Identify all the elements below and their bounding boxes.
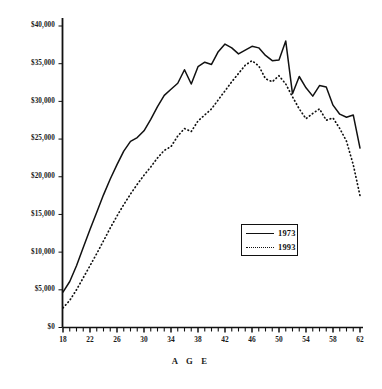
x-tick-label: 26 bbox=[105, 335, 129, 344]
x-tick-label: 38 bbox=[186, 335, 210, 344]
series-line-1973 bbox=[63, 41, 360, 292]
x-tick-marks bbox=[63, 328, 360, 333]
x-tick-label: 42 bbox=[213, 335, 237, 344]
x-axis-title: A G E bbox=[0, 356, 382, 366]
y-tick-label: $20,000 bbox=[2, 172, 55, 180]
x-tick-label: 34 bbox=[159, 335, 183, 344]
x-tick-label: 62 bbox=[348, 335, 372, 344]
legend-entry-1973: 1973 bbox=[245, 226, 296, 240]
y-tick-label: $40,000 bbox=[2, 21, 55, 29]
y-tick-label: $15,000 bbox=[2, 210, 55, 218]
y-tick-label: $5,000 bbox=[2, 285, 55, 293]
legend-swatch-dotted-icon bbox=[245, 243, 275, 251]
legend-swatch-solid-icon bbox=[245, 229, 275, 237]
x-tick-label: 54 bbox=[294, 335, 318, 344]
axis-lines bbox=[63, 18, 364, 328]
legend-label-1973: 1973 bbox=[278, 229, 296, 238]
y-tick-label: $0 bbox=[2, 323, 55, 331]
y-tick-label: $10,000 bbox=[2, 248, 55, 256]
x-tick-label: 50 bbox=[267, 335, 291, 344]
y-tick-label: $25,000 bbox=[2, 134, 55, 142]
y-tick-label: $35,000 bbox=[2, 59, 55, 67]
y-tick-label: $30,000 bbox=[2, 97, 55, 105]
series-layer bbox=[63, 41, 360, 308]
earnings-by-age-line-chart: $0$5,000$10,000$15,000$20,000$25,000$30,… bbox=[0, 0, 382, 389]
x-tick-label: 46 bbox=[240, 335, 264, 344]
plot-area bbox=[0, 0, 382, 389]
x-tick-label: 22 bbox=[78, 335, 102, 344]
chart-legend: 1973 1993 bbox=[241, 224, 298, 256]
x-tick-label: 18 bbox=[51, 335, 75, 344]
x-tick-label: 58 bbox=[321, 335, 345, 344]
x-tick-label: 30 bbox=[132, 335, 156, 344]
legend-entry-1993: 1993 bbox=[245, 240, 296, 254]
legend-label-1993: 1993 bbox=[278, 243, 296, 252]
